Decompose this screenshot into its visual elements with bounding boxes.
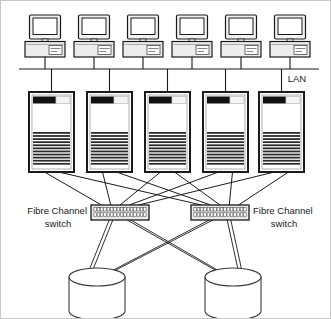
fc-switch-port-2-r2-p16 (244, 213, 247, 216)
fc-switch-port-2-r1-p11 (227, 208, 230, 211)
server-vent-stripe-5-1 (263, 132, 300, 134)
fc-switch-port-2-r2-p10 (224, 213, 227, 216)
fc-switch-port-1-r2-p15 (140, 213, 143, 216)
server-vent-stripe-5-4 (263, 141, 300, 143)
server-vent-stripe-2-4 (91, 141, 128, 143)
base-unit-panel-3 (147, 46, 160, 55)
storage-array-right (205, 268, 261, 319)
fibre-link-server2-switch1 (103, 172, 111, 205)
fc-switch-port-2-r1-p2 (197, 208, 200, 211)
server-vent-stripe-5-2 (263, 135, 300, 137)
fc-switch-body-1[interactable] (91, 205, 149, 220)
storage-link-switch1-array1-strand2 (91, 220, 113, 275)
fc-switch-port-2-r2-p13 (234, 213, 237, 216)
workstations-group (25, 15, 310, 57)
fc-switch-port-2-r1-p5 (207, 208, 210, 211)
server-vent-stripe-2-7 (91, 151, 128, 153)
san-topology-diagram: LAN Fibre Channel switch Fibre Channel s… (0, 0, 331, 319)
monitor-screen-4 (180, 18, 204, 35)
fc-switch-port-1-r1-p8 (117, 208, 120, 211)
server-vent-stripe-3-11 (149, 163, 186, 165)
fc-switch-port-2-r1-p6 (210, 208, 213, 211)
server-vent-stripe-4-5 (207, 144, 244, 146)
server-vent-stripe-5-3 (263, 138, 300, 140)
fc-switch-port-2-r2-p9 (220, 213, 223, 216)
server-vent-stripe-2-6 (91, 147, 128, 149)
storage-link-switch1-array2-strand1 (127, 220, 224, 275)
server-vent-stripe-3-2 (149, 135, 186, 137)
fc-switch-right-label-line1: Fibre Channel (253, 205, 313, 216)
server-vent-stripe-1-6 (33, 147, 70, 149)
fc-switch-port-1-r2-p16 (144, 213, 147, 216)
server-vent-stripe-4-8 (207, 154, 244, 156)
fc-switch-left[interactable] (91, 205, 149, 220)
server-vent-stripe-4-2 (207, 135, 244, 137)
server-vent-stripe-3-10 (149, 160, 186, 162)
fc-switch-port-1-r2-p1 (94, 213, 97, 216)
server-vent-stripe-2-9 (91, 157, 128, 159)
server-vent-stripe-5-6 (263, 147, 300, 149)
server-vent-stripe-2-5 (91, 144, 128, 146)
fc-switch-port-2-r1-p15 (240, 208, 243, 211)
server-vent-stripe-2-3 (91, 138, 128, 140)
fc-switch-port-1-r1-p5 (107, 208, 110, 211)
fc-switch-port-2-r1-p14 (237, 208, 240, 211)
server-5 (259, 92, 304, 172)
fc-switch-port-1-r1-p2 (97, 208, 100, 211)
server-vent-stripe-3-8 (149, 154, 186, 156)
server-vent-stripe-2-1 (91, 132, 128, 134)
server-top-bay-1 (56, 97, 70, 104)
fc-switch-port-1-r2-p14 (137, 213, 140, 216)
fc-switch-body-2[interactable] (191, 205, 249, 220)
fc-switch-port-1-r1-p10 (124, 208, 127, 211)
storage-link-switch2-array1-strand2 (106, 220, 213, 275)
fc-switch-port-2-r1-p13 (234, 208, 237, 211)
server-vent-stripe-1-5 (33, 144, 70, 146)
server-vent-stripe-2-2 (91, 135, 128, 137)
monitor-screen-6 (278, 18, 302, 35)
server-vent-stripe-4-3 (207, 138, 244, 140)
fc-switch-port-1-r1-p6 (110, 208, 113, 211)
server-vent-stripe-1-9 (33, 157, 70, 159)
lan-label: LAN (288, 73, 307, 84)
fibre-link-server4-switch2 (229, 172, 232, 205)
fc-switch-left-label-line1: Fibre Channel (27, 205, 87, 216)
base-unit-panel-4 (196, 46, 209, 55)
fc-switch-port-2-r2-p15 (240, 213, 243, 216)
server-top-bay-3 (172, 97, 186, 104)
monitor-screen-1 (33, 18, 57, 35)
fc-switch-right[interactable] (191, 205, 249, 220)
server-vent-stripe-4-9 (207, 157, 244, 159)
fc-switch-port-2-r2-p4 (204, 213, 207, 216)
base-unit-panel-1 (49, 46, 62, 55)
fc-switch-port-1-r1-p1 (94, 208, 97, 211)
fc-switch-port-2-r2-p6 (210, 213, 213, 216)
fc-switch-port-1-r1-p7 (114, 208, 117, 211)
server-vent-stripe-5-7 (263, 151, 300, 153)
server-vent-stripe-3-1 (149, 132, 186, 134)
server-top-bay-5 (286, 97, 300, 104)
server-vent-stripe-3-3 (149, 138, 186, 140)
server-vent-stripe-5-5 (263, 144, 300, 146)
monitor-screen-3 (131, 18, 155, 35)
storage-cylinder-top-2 (205, 268, 261, 286)
fc-switch-port-1-r1-p15 (140, 208, 143, 211)
workstation-5 (221, 15, 261, 57)
server-vent-stripe-3-4 (149, 141, 186, 143)
server-vent-stripe-4-1 (207, 132, 244, 134)
workstation-3 (123, 15, 163, 57)
server-vent-stripe-1-8 (33, 154, 70, 156)
server-lan-uplinks (52, 69, 282, 94)
workstation-1 (25, 15, 65, 57)
server-top-bar-2 (91, 97, 114, 104)
monitor-screen-5 (229, 18, 253, 35)
fc-switch-port-2-r2-p1 (194, 213, 197, 216)
storage-link-switch1-array2-strand2 (131, 220, 226, 275)
fc-switch-port-2-r2-p14 (237, 213, 240, 216)
base-unit-panel-6 (294, 46, 307, 55)
fc-switch-port-2-r1-p16 (244, 208, 247, 211)
server-vent-stripe-4-10 (207, 160, 244, 162)
fc-switch-port-2-r2-p7 (214, 213, 217, 216)
server-vent-stripe-5-9 (263, 157, 300, 159)
server-vent-stripe-1-7 (33, 151, 70, 153)
